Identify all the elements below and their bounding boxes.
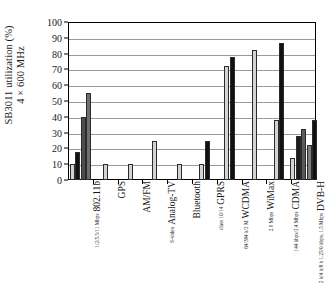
x-axis-category-dvb-h: 2 k/4 k/8 k 1.25/0 kbps, 1.5 MbpsDVB-H	[309, 181, 332, 273]
y-tick-label: 80	[52, 48, 62, 59]
x-axis-category-bluetooth: Bluetooth	[185, 181, 211, 273]
x-axis-category-analog-tv: S-videoAnalog-TV	[160, 181, 186, 273]
x-axis-label: AM/FM	[143, 181, 153, 213]
x-axis-label: Bluetooth	[193, 181, 203, 218]
y-tick-label: 40	[52, 111, 62, 122]
x-axis-category-am-fm: AM/FM	[135, 181, 161, 273]
x-axis-sublabel: class 10/14	[220, 207, 225, 230]
x-axis-category-gprs: class 10/14GPRS	[209, 181, 235, 273]
y-tick-label: 50	[52, 96, 62, 107]
x-axis-label: WiMax	[267, 181, 277, 210]
y-tick-label: 90	[52, 32, 62, 43]
gridline	[69, 86, 315, 87]
x-axis-category-wimax: 2.9 MbpsWiMax	[259, 181, 285, 273]
x-axis-category-cdma: 144 kbps/2.4 MbpsCDMA	[284, 181, 310, 273]
gridline	[69, 165, 315, 166]
x-axis-label: GPS	[118, 181, 128, 198]
gridline	[69, 39, 315, 40]
y-tick-label: 20	[52, 143, 62, 154]
x-axis-labels: 1/2/5.5/11 Mbps802.11bGPSAM/FMS-videoAna…	[68, 181, 316, 274]
plot-area	[68, 22, 316, 180]
y-tick-label: 30	[52, 127, 62, 138]
x-axis-label: WCDMA	[242, 181, 252, 218]
gridline	[69, 118, 315, 119]
x-axis-category-802-11b: 1/2/5.5/11 Mbps802.11b	[85, 181, 111, 273]
x-axis-sublabel: 144 kbps/2.4 Mbps	[294, 212, 299, 252]
gridline	[69, 70, 315, 71]
y-tick-label: 0	[57, 175, 62, 186]
x-axis-sublabel: S-video	[170, 227, 175, 243]
x-axis-category-wcdma: 64/384 k/2 MWCDMA	[234, 181, 260, 273]
gridline	[69, 102, 315, 103]
y-tick-label: 70	[52, 64, 62, 75]
y-tick-label: 10	[52, 159, 62, 170]
gridline	[69, 134, 315, 135]
x-axis-label: 802.11b	[94, 181, 104, 212]
x-axis-category-gps: GPS	[110, 181, 136, 273]
y-tick-label: 60	[52, 80, 62, 91]
x-axis-label: DVB-H	[317, 181, 327, 211]
y-axis-ticks: 0102030405060708090100	[0, 22, 68, 180]
gridline	[69, 55, 315, 56]
x-axis-sublabel: 1/2/5.5/11 Mbps	[96, 214, 101, 248]
x-axis-sublabel: 64/384 k/2 M	[245, 220, 250, 248]
x-axis-sublabel: 2 k/4 k/8 k 1.25/0 kbps, 1.5 Mbps	[319, 213, 324, 283]
y-tick-label: 100	[47, 17, 62, 28]
x-axis-label: CDMA	[292, 181, 302, 210]
x-axis-sublabel: 2.9 Mbps	[269, 212, 274, 232]
gridline	[69, 149, 315, 150]
x-axis-label: GPRS	[218, 181, 228, 205]
x-axis-label: Analog-TV	[168, 181, 178, 225]
